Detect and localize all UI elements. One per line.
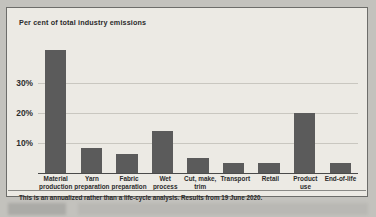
y-tick-label: 20% [16, 108, 33, 118]
bar-slot [287, 38, 323, 173]
x-axis-label: Yarn preparation [73, 175, 110, 191]
y-tick-label: 30% [16, 78, 33, 88]
x-axis-label: Material production [38, 175, 73, 191]
y-tick-label: 10% [16, 138, 33, 148]
bar-slot [109, 38, 145, 173]
x-axis-label: Fabric preparation [111, 175, 148, 191]
bar-wet-process [152, 131, 173, 173]
x-axis-label: Retail [253, 175, 288, 191]
bar-slot [145, 38, 181, 173]
bar-retail [258, 163, 279, 174]
bar-slot [251, 38, 287, 173]
bar-series [38, 38, 358, 173]
bar-yarn-preparation [81, 148, 102, 174]
bar-slot [216, 38, 252, 173]
bar-slot [323, 38, 359, 173]
page-body-text-bleed [8, 203, 368, 215]
scanned-page-background: Per cent of total industry emissions 10%… [0, 0, 376, 217]
x-axis-label: End-of-life [323, 175, 358, 191]
bar-transport [223, 163, 244, 174]
plot-area: 10%20%30% [38, 38, 358, 173]
bar-material-production [45, 50, 66, 173]
x-axis-line [38, 173, 358, 174]
bar-fabric-preparation [116, 154, 137, 174]
bar-cut-make-trim [187, 158, 208, 173]
chart-axis-title: Per cent of total industry emissions [19, 18, 146, 27]
bar-slot [38, 38, 74, 173]
bar-slot [74, 38, 110, 173]
x-axis-label: Product use [288, 175, 323, 191]
bar-product-use [294, 113, 315, 173]
chart-figure: Per cent of total industry emissions 10%… [6, 7, 368, 197]
x-axis-label: Wet process [148, 175, 183, 191]
footnote-divider [8, 190, 366, 191]
bar-end-of-life [330, 163, 351, 174]
chart-footnote: This is an annualized rather than a life… [19, 194, 262, 201]
x-axis-label: Cut, make, trim [183, 175, 218, 191]
x-axis-labels: Material productionYarn preparationFabri… [38, 175, 358, 191]
bar-slot [180, 38, 216, 173]
x-axis-label: Transport [218, 175, 253, 191]
